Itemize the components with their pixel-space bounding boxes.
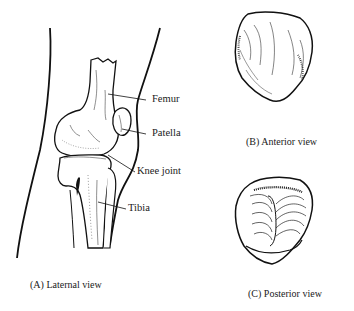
label-knee-joint: Knee joint [137,165,181,176]
leg-outline-back [17,28,51,258]
femur-bone [55,58,119,157]
knee-joint-leader [108,155,135,172]
caption-lateral-view: (A) Laternal view [30,279,102,290]
caption-posterior-view: (C) Posterior view [248,288,322,299]
tibia-bone [58,155,116,248]
caption-anterior-view: (B) Anterior view [246,136,317,147]
patella-bone-lateral [113,108,131,135]
knee-illustration [0,0,354,311]
patella-anterior-view [235,12,312,101]
patella-posterior-view [235,177,312,264]
label-tibia: Tibia [128,202,150,213]
label-femur: Femur [152,93,179,104]
label-patella: Patella [152,127,181,138]
